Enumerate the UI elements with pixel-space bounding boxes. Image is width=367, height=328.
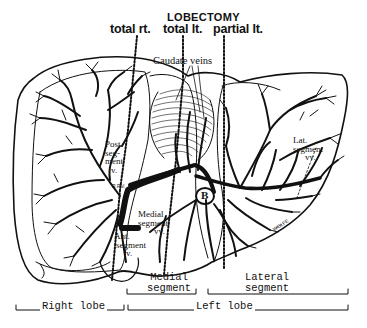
caudate-hatching (152, 90, 213, 156)
ant-segment-v-label: Ant. segment v. (114, 232, 146, 258)
procedure-partial-left: partial lt. (213, 23, 263, 36)
liver-lobectomy-diagram: LOBECTOMY total rt. total lt. partial lt… (0, 0, 367, 328)
lat-segment-vv-label: Lat. segment vv. (293, 136, 323, 162)
rpv-label: R.P.V. (112, 184, 125, 189)
resection-line-total-lt (164, 36, 183, 275)
medial-segment-bracket-label: Medial segment (145, 272, 193, 293)
procedure-total-right: total rt. (110, 23, 151, 36)
lateral-segment-bracket-label: Lateral segment (243, 272, 291, 293)
left-lobe-bracket-label: Left lobe (194, 301, 255, 312)
right-lobe-bracket-label: Right lobe (40, 301, 107, 312)
b-marker: B (201, 190, 208, 201)
post-segment-label: Post. seg- ment v. (105, 140, 123, 174)
lateral-segment-outline (222, 83, 280, 90)
caudate-veins-label: Caudate veins (153, 56, 212, 67)
procedure-total-left: total lt. (163, 23, 202, 36)
